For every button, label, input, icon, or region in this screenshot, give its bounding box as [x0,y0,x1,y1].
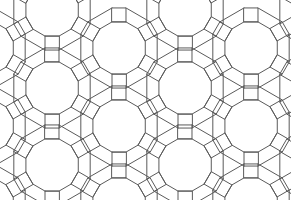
hexagon-edge [258,8,282,22]
hexagon-edge [21,191,45,200]
hexagon-edge [258,74,282,88]
square [270,133,289,152]
square [71,172,90,191]
hexagon-edge [258,86,282,100]
hexagon-edge [88,74,112,88]
square [178,114,192,128]
hexagon-edge [258,152,282,166]
square [280,172,291,191]
square [14,17,33,36]
square [45,125,59,139]
square [45,191,59,200]
dodecagon [225,22,277,74]
square [178,125,192,139]
dodecagon [159,139,211,191]
square [45,114,59,128]
square [71,95,90,114]
hexagon-edge [88,86,112,100]
square [270,55,289,74]
square [14,139,33,158]
hexagon-edge [0,152,18,166]
square [204,0,223,3]
hexagon-edge [258,164,282,178]
square [81,178,100,197]
square [280,139,291,158]
hexagon-edge [59,125,83,139]
square [6,22,25,41]
square [178,191,192,200]
dodecagon [159,0,211,36]
hexagon-edge [0,86,18,100]
hexagon-edge [88,8,112,22]
square [147,62,166,81]
hexagon-edge [21,48,45,62]
hexagon-edge [88,164,112,178]
square [213,55,232,74]
hexagon-edge [21,36,45,50]
dodecagon [26,139,78,191]
dodecagon [225,178,277,200]
dodecagon [93,178,145,200]
dodecagon [26,0,78,36]
hexagon-edge [59,36,83,50]
square [71,62,90,81]
square [81,100,100,119]
square [81,22,100,41]
dodecagon [93,22,145,74]
square [280,62,291,81]
hexagon-edge [21,125,45,139]
hexagon-edge [59,48,83,62]
square [14,172,33,191]
square [147,0,166,3]
hexagon-edge [88,152,112,166]
hexagon-edge [59,191,83,200]
square [14,0,33,3]
square [270,100,289,119]
square [81,55,100,74]
hexagon-edge [0,8,18,22]
square [244,8,258,22]
square [270,178,289,197]
square [71,139,90,158]
hexagon-edge [59,114,83,128]
dodecagon [0,178,13,200]
dodecagon [225,100,277,152]
square [6,100,25,119]
square [112,8,126,22]
hexagon-edge [0,74,18,88]
square [6,178,25,197]
square [71,17,90,36]
square [270,22,289,41]
dodecagon [26,62,78,114]
square [71,0,90,3]
square [14,95,33,114]
hexagon-edge [0,164,18,178]
square [81,133,100,152]
square [280,0,291,3]
dodecagon [93,100,145,152]
hexagon-edge [21,114,45,128]
square [138,55,157,74]
dodecagon [159,62,211,114]
tiling-canvas [0,0,291,200]
square [6,133,25,152]
square [204,62,223,81]
